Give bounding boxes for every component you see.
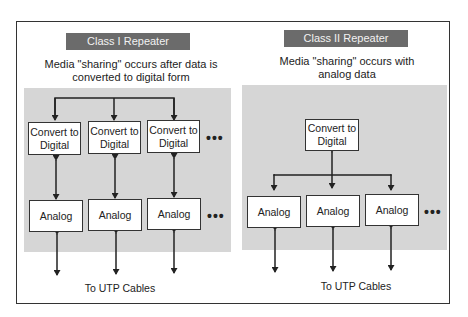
class1-analog-box-3: Analog xyxy=(147,198,201,230)
class1-convert-3-line1: Convert to xyxy=(149,124,197,137)
class1-convert-3-line2: Digital xyxy=(149,137,197,150)
class2-analog-box-1: Analog xyxy=(247,196,301,228)
class2-convert-line2: Digital xyxy=(308,135,356,148)
class1-convert-box-2: Convert toDigital xyxy=(88,121,141,154)
class2-convert-line1: Convert to xyxy=(308,122,356,135)
class1-analog-ellipsis: ••• xyxy=(207,211,225,221)
class1-analog-box-1: Analog xyxy=(29,200,83,232)
class2-convert-box: Convert toDigital xyxy=(305,119,359,151)
class1-convert-box-1: Convert toDigital xyxy=(28,122,81,155)
class1-analog-box-2: Analog xyxy=(88,199,142,231)
class1-convert-1-line2: Digital xyxy=(30,139,78,152)
class2-analog-ellipsis: ••• xyxy=(424,207,442,217)
class1-convert-2-line2: Digital xyxy=(90,138,138,151)
connector-arrows xyxy=(0,0,468,317)
class2-analog-box-3: Analog xyxy=(365,194,419,226)
class2-caption: To UTP Cables xyxy=(306,280,406,292)
class1-caption: To UTP Cables xyxy=(70,282,170,294)
class2-analog-box-2: Analog xyxy=(306,195,360,227)
class1-convert-ellipsis: ••• xyxy=(206,133,224,143)
class1-convert-1-line1: Convert to xyxy=(30,126,78,139)
class1-convert-2-line1: Convert to xyxy=(90,125,138,138)
class1-convert-box-3: Convert toDigital xyxy=(147,120,200,153)
